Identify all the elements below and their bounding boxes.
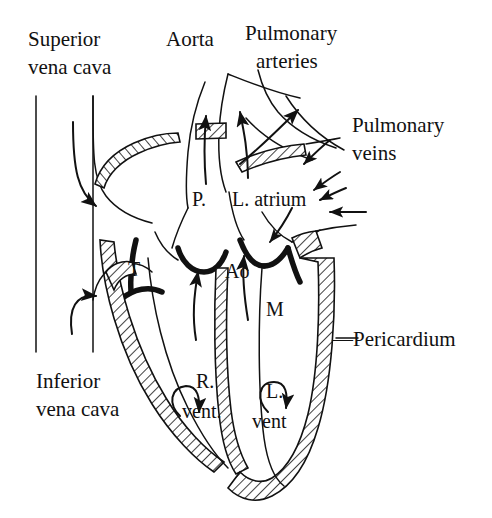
label-inferior-vena-cava-line1: Inferior: [36, 369, 100, 393]
label-pulmonary-veins-line2: veins: [352, 141, 396, 165]
label-pulmonary-arteries-line2: arteries: [256, 49, 318, 73]
label-superior-vena-cava-line1: Superior: [28, 27, 100, 51]
pericardium-left-lines: [36, 96, 93, 352]
interventricular-septum: [215, 268, 248, 474]
label-pericardium: —Pericardium: [331, 327, 456, 351]
label-inferior-vena-cava-line2: vena cava: [36, 397, 120, 421]
label-superior-vena-cava-line2: vena cava: [28, 55, 112, 79]
label-left-atrium: L. atrium: [232, 188, 307, 210]
label-mitral-valve: M: [266, 298, 284, 320]
heart-diagram: Superior vena cava Aorta Pulmonary arter…: [0, 0, 492, 518]
superior-vena-cava-vessel: [93, 96, 180, 223]
right-atrium: [155, 208, 188, 260]
label-aortic-valve: Ao: [225, 260, 249, 282]
pulmonary-vein-entry: [292, 225, 356, 258]
label-right-ventricle-line1: R.: [196, 370, 214, 392]
label-aorta: Aorta: [166, 27, 214, 51]
label-tricuspid-valve: T: [128, 258, 140, 280]
label-pulmonary-veins-line1: Pulmonary: [352, 113, 445, 137]
heart-diagram-svg: Superior vena cava Aorta Pulmonary arter…: [0, 0, 492, 518]
heart-valves: [120, 240, 300, 300]
label-left-ventricle-line2: vent: [252, 410, 287, 432]
label-pulmonary-valve: P.: [192, 188, 206, 210]
label-left-ventricle-line1: L.: [266, 380, 283, 402]
label-pulmonary-arteries-line1: Pulmonary: [245, 21, 338, 45]
label-right-ventricle-line2: vent.: [182, 400, 221, 422]
